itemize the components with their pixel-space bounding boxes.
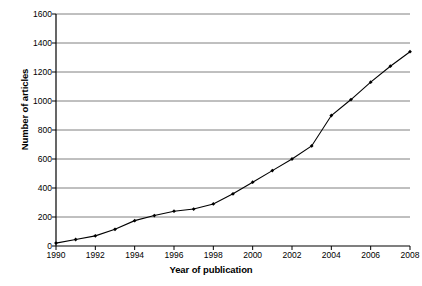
x-axis-tick-marks (56, 246, 410, 250)
data-point-marker (113, 227, 117, 231)
data-point-marker (192, 207, 196, 211)
data-point-marker (133, 219, 137, 223)
line-chart: Number of articles Year of publication 0… (0, 0, 422, 286)
data-series-line (56, 52, 410, 243)
gridlines (56, 14, 410, 217)
plot-area (0, 0, 422, 286)
data-point-marker (211, 202, 215, 206)
data-point-marker (54, 241, 58, 245)
data-point-marker (74, 238, 78, 242)
data-point-marker (172, 209, 176, 213)
data-point-marker (93, 234, 97, 238)
data-series-markers (54, 50, 412, 245)
